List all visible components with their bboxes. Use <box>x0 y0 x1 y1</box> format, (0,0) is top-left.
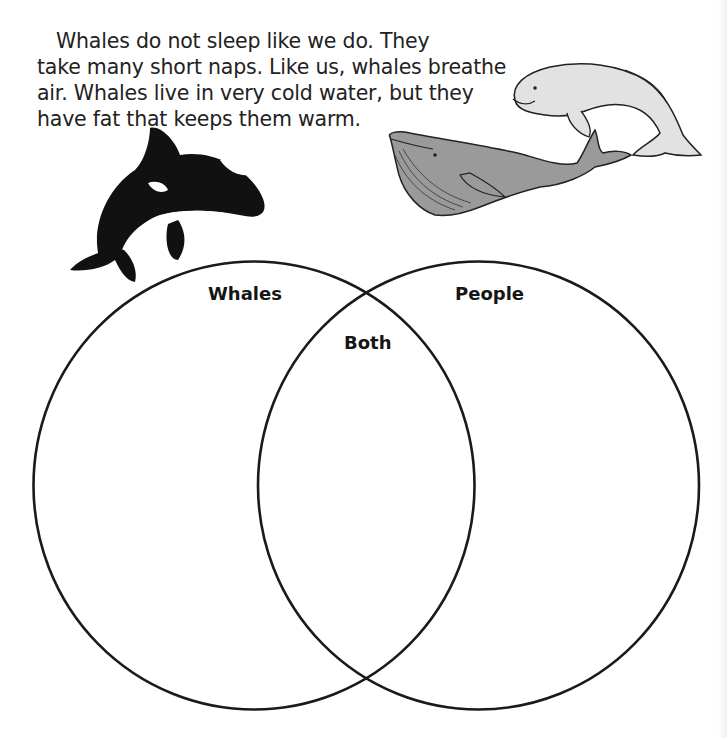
venn-diagram <box>0 0 727 738</box>
venn-label-both: Both <box>344 332 392 353</box>
venn-label-people: People <box>455 283 524 304</box>
venn-label-whales: Whales <box>208 283 282 304</box>
venn-circle-people <box>258 262 699 710</box>
venn-circle-whales <box>34 262 475 710</box>
